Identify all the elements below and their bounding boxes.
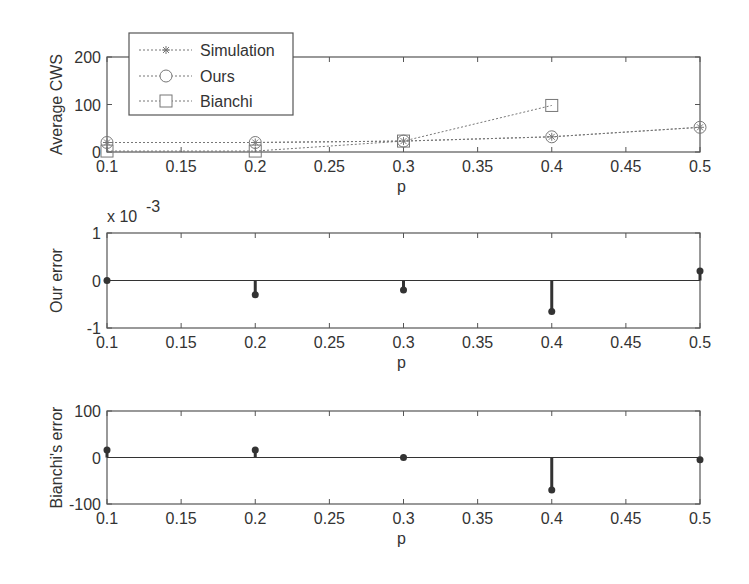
x-tick-label: 0.15	[166, 158, 197, 175]
y-tick-label: -1	[87, 320, 101, 337]
stem-marker	[104, 447, 111, 454]
y-axis-label-bianchi-error: Bianchi's error	[48, 406, 65, 508]
x-tick-label: 0.5	[689, 158, 711, 175]
x-tick-label: 0.35	[462, 158, 493, 175]
stem-marker	[400, 287, 407, 294]
x-tick-label: 0.25	[314, 334, 345, 351]
y-multiplier-exponent: -3	[146, 198, 160, 215]
x-tick-label: 0.15	[166, 510, 197, 527]
legend-asterisk-icon	[162, 46, 170, 54]
legend-label: Bianchi	[200, 93, 252, 110]
legend-circle-icon	[160, 70, 172, 82]
stem-marker	[252, 291, 259, 298]
y-tick-label: -100	[69, 496, 101, 513]
x-tick-label: 0.2	[244, 334, 266, 351]
y-tick-label: 100	[74, 403, 101, 420]
x-tick-label: 0.4	[541, 158, 563, 175]
x-tick-label: 0.3	[392, 334, 414, 351]
y-tick-label: 0	[92, 144, 101, 161]
figure: 0.10.150.20.250.30.350.40.450.50100200pA…	[0, 0, 749, 584]
stem-marker	[548, 487, 555, 494]
x-tick-label: 0.4	[541, 334, 563, 351]
x-axis-label: p	[397, 530, 406, 547]
avg-cws-plot: 0.10.150.20.250.30.350.40.450.50100200pA…	[48, 33, 711, 195]
y-axis-label-average-cws: Average CWS	[48, 54, 65, 155]
stem-marker	[400, 454, 407, 461]
stem-marker	[104, 277, 111, 284]
x-tick-label: 0.45	[610, 158, 641, 175]
x-tick-label: 0.5	[689, 510, 711, 527]
legend: SimulationOursBianchi	[129, 33, 293, 115]
stem-marker	[252, 447, 259, 454]
legend-label: Simulation	[200, 42, 275, 59]
x-tick-label: 0.25	[314, 510, 345, 527]
y-multiplier-label: x 10	[107, 208, 137, 225]
our-error-plot: 0.10.150.20.250.30.350.40.450.5-101pOur …	[48, 198, 711, 371]
x-tick-label: 0.25	[314, 158, 345, 175]
y-tick-label: 0	[92, 450, 101, 467]
x-tick-label: 0.5	[689, 334, 711, 351]
y-tick-label: 100	[74, 97, 101, 114]
stem-marker	[548, 308, 555, 315]
y-tick-label: 0	[92, 273, 101, 290]
x-tick-label: 0.3	[392, 510, 414, 527]
y-axis-label-our-error: Our error	[48, 247, 65, 313]
stem-marker	[697, 456, 704, 463]
stem-marker	[697, 268, 704, 275]
x-tick-label: 0.3	[392, 158, 414, 175]
x-tick-label: 0.35	[462, 334, 493, 351]
x-tick-label: 0.2	[244, 510, 266, 527]
x-axis-label: p	[397, 354, 406, 371]
y-tick-label: 1	[92, 225, 101, 242]
legend-label: Ours	[200, 68, 235, 85]
x-tick-label: 0.45	[610, 510, 641, 527]
x-tick-label: 0.45	[610, 334, 641, 351]
x-tick-label: 0.4	[541, 510, 563, 527]
x-axis-label: p	[397, 178, 406, 195]
x-tick-label: 0.2	[244, 158, 266, 175]
legend-square-icon	[160, 95, 172, 107]
y-tick-label: 200	[74, 49, 101, 66]
bianchi-error-plot: 0.10.150.20.250.30.350.40.450.5-1000100p…	[48, 403, 711, 547]
x-tick-label: 0.15	[166, 334, 197, 351]
x-tick-label: 0.35	[462, 510, 493, 527]
